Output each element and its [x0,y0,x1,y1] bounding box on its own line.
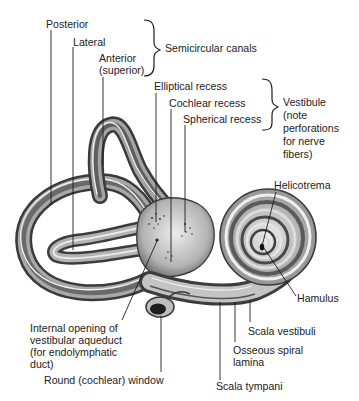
label-internal-line1: Internal opening of [30,322,122,334]
label-vestibule-line2: (note [283,109,339,122]
label-vestibule-line1: Vestibule [283,96,339,109]
label-cochlear-recess: Cochlear recess [169,97,246,109]
label-hamulus: Hamulus [297,292,339,304]
label-lateral: Lateral [73,36,105,48]
label-spherical-recess: Spherical recess [183,113,261,125]
vestibule-brace [262,79,278,130]
label-elliptical-recess: Elliptical recess [154,80,227,92]
inner-ear-diagram: Posterior Lateral Anterior (superior) Se… [0,0,359,401]
label-anterior-line2: (superior) [99,64,144,76]
label-osseous-spiral-lamina: Osseous spiral lamina [233,344,303,368]
label-posterior: Posterior [46,18,88,30]
label-internal-line4: duct) [30,358,122,370]
label-internal-line3: (for endolymphatic [30,346,122,358]
label-anterior-line1: Anterior [99,52,144,64]
cochlea [220,189,316,285]
label-internal-opening: Internal opening of vestibular aqueduct … [30,322,122,370]
label-vestibule-line4: for nerve [283,135,339,148]
label-scala-tympani: Scala tympani [216,380,283,392]
label-vestibule-line3: perforations [283,122,339,135]
label-round-window: Round (cochlear) window [44,374,164,386]
label-osseous-line1: Osseous spiral [233,344,303,356]
label-helicotrema: Helicotrema [274,179,331,191]
label-osseous-line2: lamina [233,356,303,368]
label-semicircular-canals: Semicircular canals [165,42,257,54]
label-scala-vestibuli: Scala vestibuli [248,325,316,337]
label-vestibule-line5: fibers) [283,148,339,161]
vestibule [137,198,214,277]
label-internal-line2: vestibular aqueduct [30,334,122,346]
label-anterior: Anterior (superior) [99,52,144,76]
semicircular-canals-brace [144,20,160,76]
label-vestibule: Vestibule (note perforations for nerve f… [283,96,339,161]
